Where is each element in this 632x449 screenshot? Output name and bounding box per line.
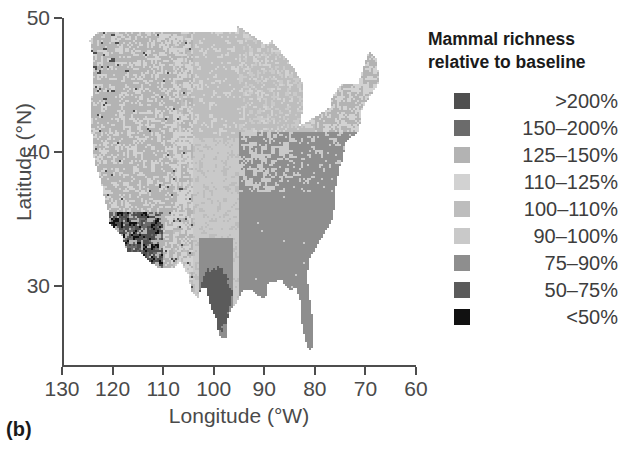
legend-swatch (454, 309, 470, 325)
y-tick-mark (54, 151, 62, 153)
legend-title-line-1: Mammal richness (428, 28, 626, 51)
y-tick-label: 50 (0, 7, 50, 28)
legend-row: 50–75% (428, 277, 626, 304)
legend-swatch (454, 120, 470, 136)
y-tick-mark (54, 17, 62, 19)
legend-swatch (454, 147, 470, 163)
legend-row: 110–125% (428, 169, 626, 196)
x-tick-label: 130 (34, 378, 90, 399)
x-tick-mark (415, 367, 417, 375)
x-tick-label: 110 (135, 378, 191, 399)
legend-row: <50% (428, 304, 626, 331)
x-tick-label: 80 (287, 378, 343, 399)
figure-panel-b: 504030 13012011010090807060 Latitude (°N… (0, 0, 632, 449)
legend-items: >200%150–200%125–150%110–125%100–110%90–… (428, 88, 626, 331)
legend-row: >200% (428, 88, 626, 115)
legend-label: 90–100% (470, 226, 626, 246)
legend-row: 90–100% (428, 223, 626, 250)
legend-label: 75–90% (470, 253, 626, 273)
legend-title-line-2: relative to baseline (428, 51, 626, 74)
legend-swatch (454, 228, 470, 244)
y-axis-label: Latitude (°N) (12, 52, 36, 272)
legend-row: 150–200% (428, 115, 626, 142)
x-tick-mark (213, 367, 215, 375)
legend-label: 100–110% (470, 199, 626, 219)
x-axis-label: Longitude (°W) (62, 404, 416, 428)
x-tick-mark (61, 367, 63, 375)
mammal-richness-raster-map (63, 18, 415, 366)
x-tick-label: 70 (337, 378, 393, 399)
legend-title: Mammal richness relative to baseline (428, 28, 626, 74)
x-tick-mark (162, 367, 164, 375)
legend: Mammal richness relative to baseline >20… (428, 28, 626, 331)
x-tick-label: 120 (85, 378, 141, 399)
y-tick-label: 30 (0, 275, 50, 296)
legend-label: 150–200% (470, 118, 626, 138)
legend-row: 75–90% (428, 250, 626, 277)
legend-label: <50% (470, 307, 626, 327)
legend-swatch (454, 201, 470, 217)
legend-swatch (454, 93, 470, 109)
x-tick-label: 100 (186, 378, 242, 399)
panel-label: (b) (6, 419, 32, 439)
x-tick-mark (364, 367, 366, 375)
legend-swatch (454, 255, 470, 271)
map-plot-area (63, 18, 415, 366)
x-tick-label: 60 (388, 378, 444, 399)
legend-swatch (454, 174, 470, 190)
x-tick-label: 90 (236, 378, 292, 399)
legend-label: 110–125% (470, 172, 626, 192)
legend-label: 50–75% (470, 280, 626, 300)
legend-row: 100–110% (428, 196, 626, 223)
x-tick-mark (314, 367, 316, 375)
legend-label: 125–150% (470, 145, 626, 165)
legend-row: 125–150% (428, 142, 626, 169)
x-tick-mark (263, 367, 265, 375)
legend-label: >200% (470, 91, 626, 111)
legend-swatch (454, 282, 470, 298)
x-tick-mark (112, 367, 114, 375)
y-tick-mark (54, 285, 62, 287)
